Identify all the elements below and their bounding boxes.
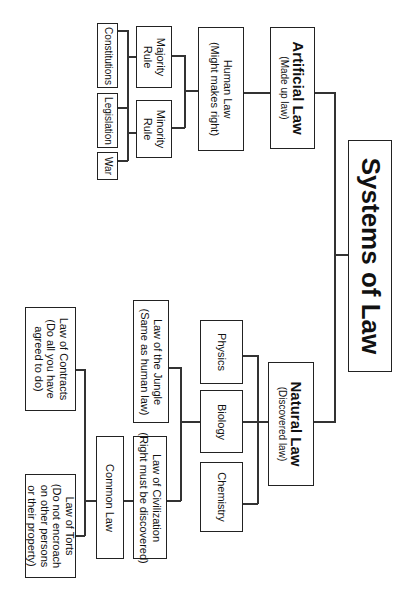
artificial-law-node: Artificial Law (Made up law) <box>270 27 315 149</box>
systems-of-law-node: Systems of Law <box>348 140 392 372</box>
connector <box>84 500 96 502</box>
torts-title: Law of Torts <box>63 480 76 572</box>
connector <box>118 107 128 109</box>
physics-label: Physics <box>215 333 228 371</box>
law-of-torts-node: Law of Torts (Do not encroach on other p… <box>25 474 76 578</box>
physics-node: Physics <box>200 320 243 384</box>
civilization-title: Law of Civilization <box>150 432 163 563</box>
jungle-title: Law of the Jungle <box>151 308 164 415</box>
human-law-subtitle: (Might makes right) <box>208 42 221 136</box>
minority-rule-node: Minority Rule <box>136 100 172 158</box>
root-label: Systems of Law <box>356 158 386 355</box>
connector <box>84 369 86 536</box>
connector <box>172 55 185 57</box>
artificial-law-subtitle: (Made up law) <box>278 41 290 134</box>
artificial-law-title: Artificial Law <box>290 41 307 134</box>
connector <box>127 30 129 161</box>
biology-node: Biology <box>200 390 243 453</box>
natural-law-title: Natural Law <box>288 381 305 466</box>
jungle-subtitle: (Same as human law) <box>138 308 151 415</box>
chemistry-label: Chemistry <box>215 472 228 522</box>
contracts-title: Law of Contracts <box>57 314 70 404</box>
connector <box>243 355 258 357</box>
law-of-contracts-node: Law of Contracts (Do all you have agreed… <box>25 307 76 411</box>
connector <box>172 127 185 129</box>
connector <box>184 90 198 92</box>
biology-label: Biology <box>215 403 228 439</box>
connector <box>244 92 270 94</box>
common-law-node: Common Law <box>96 436 124 559</box>
connector <box>257 355 259 504</box>
majority-rule-label: Majority Rule <box>141 32 166 82</box>
connector <box>334 254 348 256</box>
connector <box>243 421 268 423</box>
war-label: War <box>102 157 114 175</box>
connector <box>76 369 85 371</box>
natural-law-node: Natural Law (Discovered law) <box>268 362 314 486</box>
legislation-label: Legislation <box>102 97 114 145</box>
connector <box>118 30 128 32</box>
legislation-node: Legislation <box>97 93 118 148</box>
chemistry-node: Chemistry <box>200 462 243 532</box>
connector <box>118 160 128 162</box>
common-law-label: Common Law <box>104 464 117 532</box>
constitutions-node: Constitutions <box>97 23 118 88</box>
natural-law-subtitle: (Discovered law) <box>277 381 289 466</box>
connector <box>180 367 182 501</box>
human-law-title: Human Law <box>221 42 234 136</box>
contracts-subtitle: (Do all you have agreed to do) <box>32 314 57 404</box>
law-of-civilization-node: Law of Civilization (Right must be disco… <box>133 436 167 559</box>
connector <box>124 500 133 502</box>
law-of-the-jungle-node: Law of the Jungle (Same as human law) <box>133 300 169 423</box>
connector <box>167 500 181 502</box>
connector <box>180 421 200 423</box>
constitutions-label: Constitutions <box>102 27 114 85</box>
torts-subtitle: (Do not encroach on other persons or the… <box>25 480 63 572</box>
connector <box>184 55 186 128</box>
connector <box>334 92 336 423</box>
connector <box>76 535 85 537</box>
civilization-subtitle: (Right must be discovered) <box>137 432 150 563</box>
majority-rule-node: Majority Rule <box>136 26 172 88</box>
war-node: War <box>97 152 118 180</box>
connector <box>315 92 335 94</box>
connector <box>314 421 335 423</box>
human-law-node: Human Law (Might makes right) <box>198 27 244 151</box>
connector <box>243 503 258 505</box>
connector <box>169 367 181 369</box>
minority-rule-label: Minority Rule <box>141 104 166 154</box>
